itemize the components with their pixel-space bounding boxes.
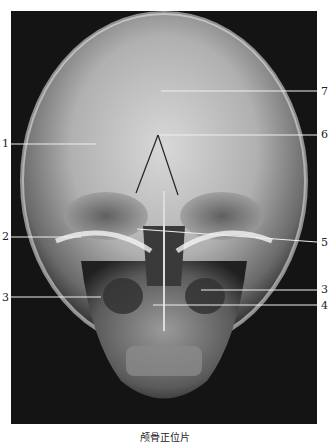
label-4: 4 (321, 300, 328, 311)
skull-xray-image (11, 11, 317, 424)
figure-caption: 颅骨正位片 (0, 429, 330, 444)
label-6: 6 (321, 129, 328, 140)
label-3-right: 3 (321, 284, 328, 295)
label-1: 1 (2, 138, 9, 149)
label-2: 2 (2, 231, 9, 242)
skull-xray-graphic (11, 11, 317, 424)
label-7: 7 (321, 86, 328, 97)
label-5: 5 (321, 237, 328, 248)
label-3-left: 3 (2, 292, 9, 303)
